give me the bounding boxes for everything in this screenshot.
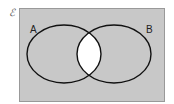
set-a-label: A bbox=[30, 24, 37, 35]
set-b-label: B bbox=[146, 24, 153, 35]
venn-diagram: A B bbox=[0, 0, 174, 104]
